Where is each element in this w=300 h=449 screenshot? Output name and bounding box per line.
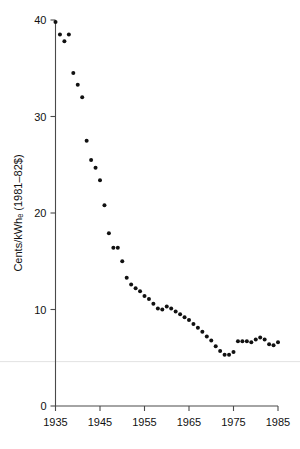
data-point <box>156 307 160 311</box>
data-point <box>178 312 182 316</box>
data-point <box>232 350 236 354</box>
x-tick-label: 1945 <box>88 416 112 428</box>
x-axis-ticks: 193519451955196519751985 <box>43 406 290 428</box>
data-point <box>174 309 178 313</box>
data-point <box>143 294 147 298</box>
data-point <box>116 246 120 250</box>
data-point <box>76 83 80 87</box>
data-point <box>218 349 222 353</box>
y-tick-label: 10 <box>34 304 46 316</box>
data-point <box>245 339 249 343</box>
data-point <box>209 338 213 342</box>
data-point <box>196 326 200 330</box>
data-point <box>62 39 66 43</box>
data-point <box>267 342 271 346</box>
y-axis-title: Cents/kWhₑ (1981–82$) <box>12 154 24 271</box>
data-point <box>58 32 62 36</box>
y-axis-ticks: 010203040 <box>34 14 55 412</box>
data-point <box>254 337 258 341</box>
data-point <box>147 297 151 301</box>
x-tick-label: 1985 <box>266 416 290 428</box>
data-point <box>151 302 155 306</box>
data-point <box>276 340 280 344</box>
data-point <box>165 305 169 309</box>
data-point <box>236 339 240 343</box>
data-point <box>249 340 253 344</box>
data-point <box>94 166 98 170</box>
data-point <box>102 203 106 207</box>
data-point <box>67 32 71 36</box>
data-point <box>214 344 218 348</box>
y-tick-label: 0 <box>40 400 46 412</box>
data-point <box>183 315 187 319</box>
data-point <box>258 335 262 339</box>
data-point <box>80 95 84 99</box>
data-point <box>187 318 191 322</box>
data-point <box>129 282 133 286</box>
chart-figure: 010203040 193519451955196519751985 Cents… <box>0 0 300 449</box>
data-point <box>54 20 58 24</box>
data-point <box>227 353 231 357</box>
data-point <box>107 231 111 235</box>
data-points <box>54 20 281 357</box>
data-point <box>98 178 102 182</box>
data-point <box>200 330 204 334</box>
data-point <box>89 158 93 162</box>
y-tick-label: 20 <box>34 207 46 219</box>
x-tick-label: 1975 <box>221 416 245 428</box>
data-point <box>160 308 164 312</box>
data-point <box>205 335 209 339</box>
data-point <box>120 259 124 263</box>
x-tick-label: 1965 <box>177 416 201 428</box>
data-point <box>125 276 129 280</box>
scatter-plot-svg: 010203040 193519451955196519751985 Cents… <box>0 0 300 449</box>
data-point <box>240 339 244 343</box>
y-tick-label: 30 <box>34 111 46 123</box>
data-point <box>263 337 267 341</box>
data-point <box>223 353 227 357</box>
data-point <box>85 139 89 143</box>
data-point <box>111 246 115 250</box>
data-point <box>138 289 142 293</box>
data-point <box>71 71 75 75</box>
data-point <box>191 322 195 326</box>
x-tick-label: 1955 <box>132 416 156 428</box>
y-tick-label: 40 <box>34 14 46 26</box>
axes-group <box>56 20 279 406</box>
x-tick-label: 1935 <box>43 416 67 428</box>
data-point <box>272 343 276 347</box>
data-point <box>134 286 138 290</box>
data-point <box>169 307 173 311</box>
